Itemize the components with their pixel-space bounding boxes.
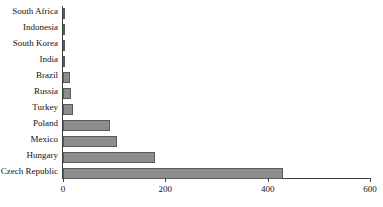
bar-row — [63, 168, 370, 179]
bar-row — [63, 104, 370, 115]
category-label: Mexico — [0, 134, 58, 144]
bar[interactable] — [63, 136, 117, 147]
x-axis-tick — [63, 178, 64, 182]
category-label: Russia — [0, 86, 58, 96]
bar-row — [63, 56, 370, 67]
bar-row — [63, 136, 370, 147]
bar-row — [63, 72, 370, 83]
bar-row — [63, 88, 370, 99]
bar-series — [63, 6, 370, 178]
category-label: South Africa — [0, 6, 58, 16]
bar[interactable] — [63, 120, 110, 131]
bar[interactable] — [63, 72, 70, 83]
bar[interactable] — [63, 24, 65, 35]
bar[interactable] — [63, 152, 155, 163]
plot-area — [63, 6, 370, 178]
bar-row — [63, 40, 370, 51]
x-axis-tick — [165, 178, 166, 182]
x-axis-tick-label: 600 — [350, 184, 383, 195]
bar[interactable] — [63, 8, 65, 19]
bar-chart: South Africa Indonesia South Korea India… — [0, 0, 383, 207]
category-label: Brazil — [0, 70, 58, 80]
x-axis-tick — [370, 178, 371, 182]
bar-row — [63, 8, 370, 19]
x-axis-tick-label: 0 — [43, 184, 83, 195]
category-axis-labels: South Africa Indonesia South Korea India… — [0, 6, 58, 178]
category-label: India — [0, 54, 58, 64]
bar-row — [63, 120, 370, 131]
category-label: Indonesia — [0, 22, 58, 32]
bar-row — [63, 24, 370, 35]
bar[interactable] — [63, 168, 283, 179]
x-axis-tick-label: 400 — [248, 184, 288, 195]
category-label: Hungary — [0, 150, 58, 160]
x-axis-tick — [268, 178, 269, 182]
category-label: Turkey — [0, 102, 58, 112]
bar[interactable] — [63, 88, 71, 99]
bar[interactable] — [63, 56, 65, 67]
bar[interactable] — [63, 104, 73, 115]
x-axis-tick-label: 200 — [145, 184, 185, 195]
bar-row — [63, 152, 370, 163]
category-label: South Korea — [0, 38, 58, 48]
category-label: Poland — [0, 118, 58, 128]
category-label: Czech Republic — [0, 166, 58, 176]
bar[interactable] — [63, 40, 65, 51]
